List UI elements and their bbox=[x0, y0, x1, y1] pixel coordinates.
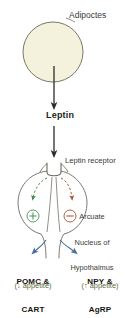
arcuate-line-2: Nucleus of bbox=[70, 239, 113, 248]
leptin-label: Leptin bbox=[46, 110, 74, 120]
leptin-receptor-icon bbox=[47, 163, 61, 176]
npy-line-2: AgRP bbox=[87, 305, 112, 314]
arrow-neuron-to-pomc bbox=[34, 240, 46, 252]
adipocytes-label: Adipoctes bbox=[69, 11, 106, 21]
appetite-decrease-label: (↓ appetite) bbox=[15, 282, 52, 291]
pomc-line-2: CART bbox=[16, 305, 49, 314]
arcuate-line-1: Arcuate bbox=[70, 213, 113, 222]
adipocyte-cell bbox=[23, 22, 83, 82]
appetite-increase-label: (↑ appetite) bbox=[82, 282, 119, 291]
leptin-receptor-label: Leptin receptor bbox=[65, 157, 116, 166]
